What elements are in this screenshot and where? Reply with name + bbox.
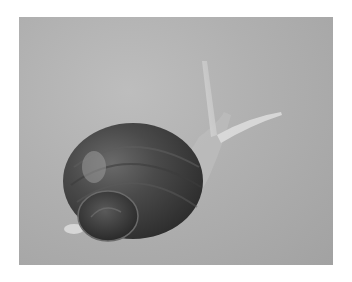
snail-illustration: [19, 17, 333, 265]
shell-whorl: [78, 191, 138, 241]
upper-tentacle: [202, 61, 217, 137]
snail-photo: [19, 17, 333, 265]
